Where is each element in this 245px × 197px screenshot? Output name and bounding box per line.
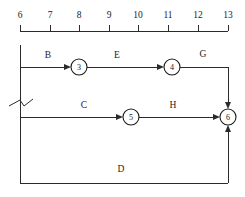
node-6[interactable]: 6	[220, 109, 236, 125]
left-vertical-rail	[9, 45, 33, 183]
node-4-label: 4	[170, 63, 174, 72]
activity-label-d: D	[118, 164, 125, 174]
node-3-label: 3	[77, 63, 81, 72]
network-diagram-root: 6 7 8 9 10 11 12 13	[0, 0, 245, 197]
axis-tick-label-7: 7	[48, 10, 53, 20]
axis-tick-label-10: 10	[133, 10, 143, 20]
arrow-head-d-into-node6	[225, 125, 231, 132]
activity-label-c: C	[81, 100, 87, 110]
node-5-label: 5	[129, 113, 133, 122]
node-3[interactable]: 3	[71, 59, 87, 75]
line-break-zigzag	[9, 99, 33, 106]
activity-label-h: H	[170, 100, 177, 110]
arrow-head-h	[213, 114, 220, 120]
axis-tick-label-6: 6	[18, 10, 23, 20]
activity-label-e: E	[114, 50, 120, 60]
time-axis: 6 7 8 9 10 11 12 13	[18, 10, 233, 31]
node-4[interactable]: 4	[164, 59, 180, 75]
axis-tick-marks	[20, 25, 228, 31]
axis-tick-label-12: 12	[193, 10, 203, 20]
node-6-label: 6	[226, 113, 230, 122]
axis-tick-labels: 6 7 8 9 10 11 12 13	[18, 10, 233, 20]
arrow-head-e	[157, 64, 164, 70]
network-diagram-canvas: 6 7 8 9 10 11 12 13	[0, 0, 245, 197]
path-middle-row	[20, 114, 220, 120]
line-break-symbol	[9, 99, 33, 106]
nodes-group: 3 4 5 6	[71, 59, 236, 125]
axis-tick-label-11: 11	[163, 10, 172, 20]
axis-tick-label-9: 9	[107, 10, 112, 20]
node-5[interactable]: 5	[123, 109, 139, 125]
arrow-head-c	[116, 114, 123, 120]
arrow-head-b	[64, 64, 71, 70]
path-top-row	[20, 64, 228, 70]
axis-tick-label-13: 13	[223, 10, 233, 20]
activity-label-b: B	[45, 50, 51, 60]
axis-tick-label-8: 8	[77, 10, 82, 20]
arrow-head-g-into-node6	[225, 102, 231, 109]
activity-label-g: G	[200, 49, 207, 59]
